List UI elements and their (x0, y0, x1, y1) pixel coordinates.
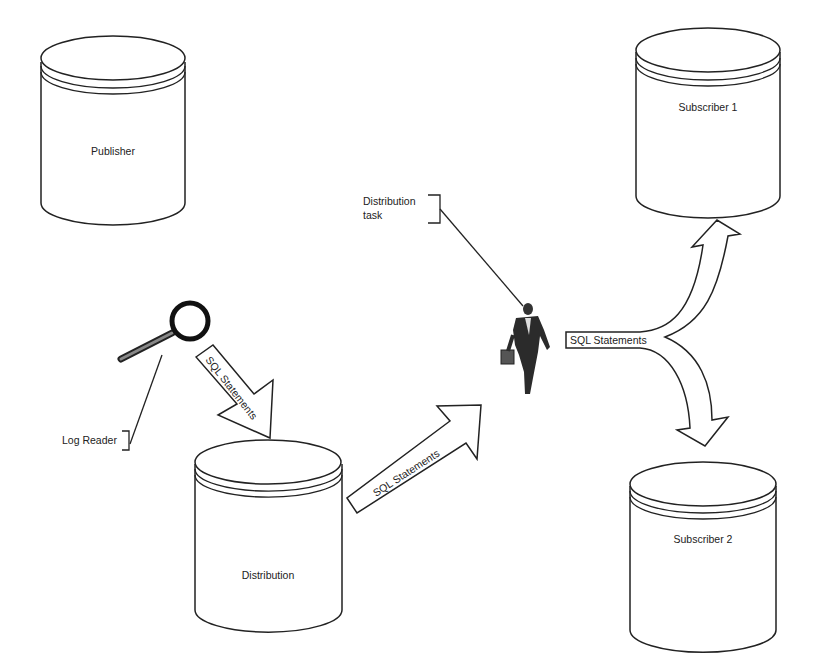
publisher-database[interactable]: Publisher (41, 36, 185, 225)
distribution-task-label-line1: Distribution (363, 195, 416, 207)
publisher-label: Publisher (91, 145, 135, 157)
sql-statements-label-3: SQL Statements (570, 334, 647, 346)
subscriber-2-database[interactable]: Subscriber 2 (630, 462, 776, 652)
distribution-database[interactable]: Distribution (195, 440, 342, 632)
sql-arrow-distribution-to-task: SQL Statements (347, 405, 481, 513)
subscriber-1-database[interactable]: Subscriber 1 (636, 28, 780, 218)
replication-diagram: Publisher Subscriber 1 Subscriber 2 Dist… (0, 0, 823, 664)
sql-arrow-log-to-distribution: SQL Statements (196, 345, 273, 438)
magnifying-glass-icon (121, 303, 208, 359)
running-businessman-icon (501, 303, 550, 394)
log-reader-label: Log Reader (62, 434, 117, 446)
distribution-task-callout: Distribution task (363, 195, 523, 306)
sql-arrow-task-to-subscribers: SQL Statements (566, 220, 740, 446)
distribution-task-label-line2: task (363, 209, 383, 221)
distribution-label: Distribution (242, 569, 295, 581)
subscriber-2-label: Subscriber 2 (674, 533, 733, 545)
subscriber-1-label: Subscriber 1 (679, 101, 738, 113)
log-reader-callout: Log Reader (62, 355, 162, 450)
